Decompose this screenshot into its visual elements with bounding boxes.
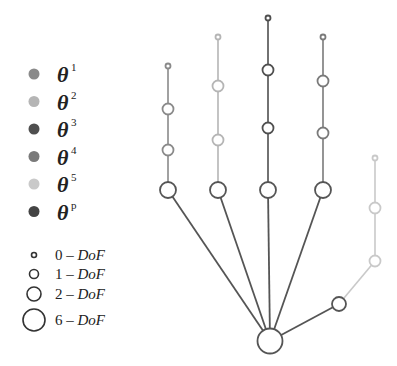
hand-skeleton [160, 16, 381, 354]
color-swatch-icon [29, 206, 40, 217]
dof-circle-icon [32, 253, 37, 258]
finger-4-joint-2 [318, 76, 329, 87]
finger-2-joint-0 [210, 182, 226, 198]
dof-label: 0 – DoF [55, 247, 106, 263]
finger-1-joint-2 [163, 104, 174, 115]
legend-item-dof-2: 2 – DoF [27, 286, 106, 302]
finger-1-joint-0 [160, 182, 176, 198]
finger-3-joint-0 [260, 182, 276, 198]
legend-label: θ [57, 145, 69, 170]
finger-4-joint-3 [321, 35, 326, 40]
dof-circle-icon [30, 270, 39, 279]
color-swatch-icon [29, 96, 40, 107]
legend-superscript: 2 [71, 89, 77, 101]
legend: θ1θ2θ3θ4θ5θp0 – DoF1 – DoF2 – DoF6 – DoF [23, 61, 106, 331]
legend-label: θ [57, 200, 69, 225]
finger-4-joint-1 [318, 128, 329, 139]
finger-2-joint-1 [213, 135, 224, 146]
legend-superscript: 3 [71, 116, 77, 128]
legend-item-dof-1: 1 – DoF [30, 266, 106, 282]
finger-3-joint-3 [266, 16, 271, 21]
legend-superscript: 4 [71, 144, 77, 156]
legend-label: θ [57, 62, 69, 87]
thumb-joint-1 [370, 256, 381, 267]
hand-kinematic-diagram: θ1θ2θ3θ4θ5θp0 – DoF1 – DoF2 – DoF6 – DoF [0, 0, 397, 366]
finger-2-joint-2 [213, 81, 224, 92]
legend-item-theta-3: θ3 [29, 116, 78, 142]
finger-3-joint-1 [263, 123, 274, 134]
thumb-link [339, 261, 375, 304]
legend-item-dof-6: 6 – DoF [23, 309, 106, 331]
dof-label: 1 – DoF [55, 266, 106, 282]
finger-2-joint-3 [216, 35, 221, 40]
finger-4-joint-0 [315, 182, 331, 198]
legend-item-theta-4: θ4 [29, 144, 78, 170]
legend-label: θ [57, 90, 69, 115]
finger-3-base-link [268, 190, 270, 341]
finger-1-joint-3 [166, 64, 171, 69]
finger-4-base-link [270, 190, 323, 341]
legend-item-theta-5: θ5 [29, 171, 78, 197]
color-swatch-icon [29, 124, 40, 135]
color-swatch-icon [29, 151, 40, 162]
color-swatch-icon [29, 69, 40, 80]
thumb-joint-2 [370, 203, 381, 214]
thumb-joint-0 [332, 297, 346, 311]
finger-3-joint-2 [263, 65, 274, 76]
legend-item-theta-p: θp [29, 199, 78, 225]
dof-label: 2 – DoF [55, 286, 106, 302]
color-swatch-icon [29, 179, 40, 190]
palm-joint [258, 329, 283, 354]
legend-superscript: p [71, 199, 77, 211]
legend-item-theta-2: θ2 [29, 89, 77, 115]
legend-item-theta-1: θ1 [29, 61, 77, 87]
finger-1-joint-1 [163, 145, 174, 156]
dof-circle-icon [27, 287, 41, 301]
legend-superscript: 5 [71, 171, 77, 183]
dof-label: 6 – DoF [55, 312, 106, 328]
legend-item-dof-0: 0 – DoF [32, 247, 106, 263]
legend-label: θ [57, 172, 69, 197]
finger-2-base-link [218, 190, 270, 341]
thumb-joint-3 [373, 156, 378, 161]
dof-circle-icon [23, 309, 45, 331]
legend-label: θ [57, 117, 69, 142]
legend-superscript: 1 [71, 61, 77, 73]
finger-1-base-link [168, 190, 270, 341]
